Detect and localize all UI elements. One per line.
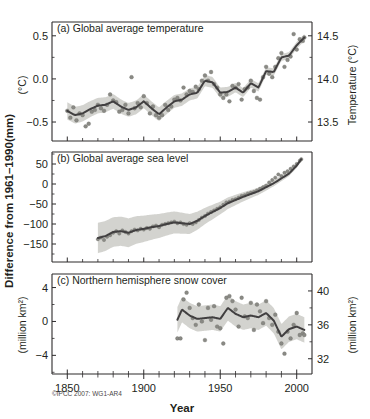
- y-tick-label: 0.0: [33, 73, 48, 85]
- copyright-credit: ©IPCC 2007: WG1-AR4: [52, 390, 122, 397]
- y-tick-label: 50: [36, 158, 48, 170]
- y-tick-label-right: 36: [317, 319, 329, 331]
- y-tick-label: −100: [23, 218, 48, 230]
- panel-c-title: (c) Northern hemisphere snow cover: [57, 274, 227, 286]
- y-tick-label: 0.5: [33, 30, 48, 42]
- panel-a-left-axis-title: (°C): [16, 76, 28, 95]
- figure-background: [0, 0, 370, 419]
- y-tick-label: 4: [42, 282, 48, 294]
- y-tick-label-right: 32: [317, 353, 329, 365]
- y-tick-label-right: 14.0: [317, 73, 338, 85]
- ipcc-climate-indicators-figure: (a) Global average temperature 0.50.0−0.…: [0, 0, 370, 419]
- x-tick-label: 1900: [132, 382, 156, 394]
- panel-a-title: (a) Global average temperature: [57, 22, 204, 34]
- panel-c-left-axis-title: (million km²): [16, 296, 28, 353]
- y-tick-label: −50: [29, 198, 48, 210]
- x-axis-title: Year: [170, 402, 195, 414]
- y-tick-label: −4: [35, 349, 48, 361]
- y-tick-label-right: 14.5: [317, 30, 338, 42]
- y-tick-label-right: 13.5: [317, 116, 338, 128]
- panel-b-title: (b) Global average sea level: [57, 152, 188, 164]
- panel-c-right-axis-title: (million km²): [346, 296, 358, 353]
- x-tick-label: 1950: [208, 382, 232, 394]
- x-tick-label: 2000: [284, 382, 308, 394]
- left-axis-main-title: Difference from 1961–1990: [3, 142, 15, 288]
- y-tick-label: 0: [42, 315, 48, 327]
- y-tick-label: −0.5: [26, 116, 48, 128]
- left-axis-main-unit: (mm): [3, 114, 15, 142]
- panel-a-right-axis-title: Temperature (°C): [346, 45, 358, 126]
- y-tick-label-right: 40: [317, 285, 329, 297]
- y-tick-label: −150: [23, 238, 48, 250]
- y-tick-label: 0: [42, 178, 48, 190]
- climate-figure-container: (a) Global average temperature 0.50.0−0.…: [0, 0, 370, 419]
